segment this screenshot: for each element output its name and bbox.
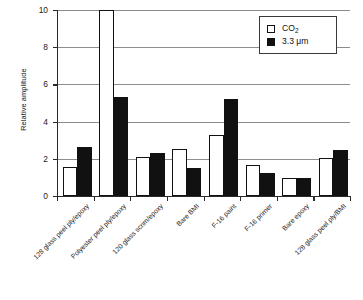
bar-ir-2 bbox=[150, 153, 165, 196]
x-tick-mark-4 bbox=[204, 196, 205, 201]
bar-co2-4 bbox=[209, 135, 224, 196]
chart-legend: CO2 3.3 μm bbox=[259, 16, 337, 54]
x-axis-label-4: F-16 paint bbox=[211, 203, 238, 230]
y-tick-label-10: 10 bbox=[8, 6, 48, 14]
x-tick-mark-5 bbox=[240, 196, 241, 201]
x-tick-mark-8 bbox=[350, 196, 351, 201]
bar-ir-6 bbox=[297, 178, 312, 196]
y-tick-label-6: 6 bbox=[8, 80, 48, 88]
bar-co2-7 bbox=[319, 158, 334, 196]
bar-co2-1 bbox=[99, 10, 114, 196]
legend-item-ir: 3.3 μm bbox=[267, 35, 330, 48]
bar-chart-figure: Relative amplitude 0246810 128 glass pee… bbox=[0, 0, 363, 300]
bar-ir-1 bbox=[114, 97, 129, 197]
x-axis-label-6: Bare epoxy bbox=[281, 203, 311, 233]
legend-item-co2: CO2 bbox=[267, 22, 330, 35]
legend-swatch-ir bbox=[267, 38, 275, 46]
x-axis-label-5: F-16 primer bbox=[244, 203, 274, 233]
legend-label-ir: 3.3 μm bbox=[282, 37, 308, 46]
x-axis-label-3: Bare BMI bbox=[176, 203, 201, 228]
bar-ir-7 bbox=[333, 150, 348, 197]
y-tick-label-8: 8 bbox=[8, 43, 48, 51]
y-tick-label-0: 0 bbox=[8, 192, 48, 200]
x-tick-mark-2 bbox=[130, 196, 131, 201]
bar-co2-5 bbox=[246, 165, 261, 196]
legend-label-co2: CO2 bbox=[282, 24, 298, 33]
x-tick-mark-7 bbox=[313, 196, 314, 201]
x-tick-mark-1 bbox=[94, 196, 95, 201]
x-tick-mark-6 bbox=[277, 196, 278, 201]
bar-ir-0 bbox=[77, 147, 92, 196]
x-tick-mark-0 bbox=[57, 196, 58, 201]
legend-swatch-co2 bbox=[267, 25, 275, 33]
bar-co2-2 bbox=[136, 157, 151, 196]
y-tick-label-2: 2 bbox=[8, 155, 48, 163]
bar-ir-4 bbox=[224, 99, 239, 196]
bar-co2-6 bbox=[282, 178, 297, 196]
bar-ir-3 bbox=[187, 168, 202, 196]
bar-co2-0 bbox=[63, 167, 78, 196]
bar-ir-5 bbox=[260, 173, 275, 196]
y-tick-label-4: 4 bbox=[8, 118, 48, 126]
y-axis-title: Relative amplitude bbox=[19, 40, 28, 160]
x-tick-mark-3 bbox=[167, 196, 168, 201]
bar-co2-3 bbox=[172, 149, 187, 196]
